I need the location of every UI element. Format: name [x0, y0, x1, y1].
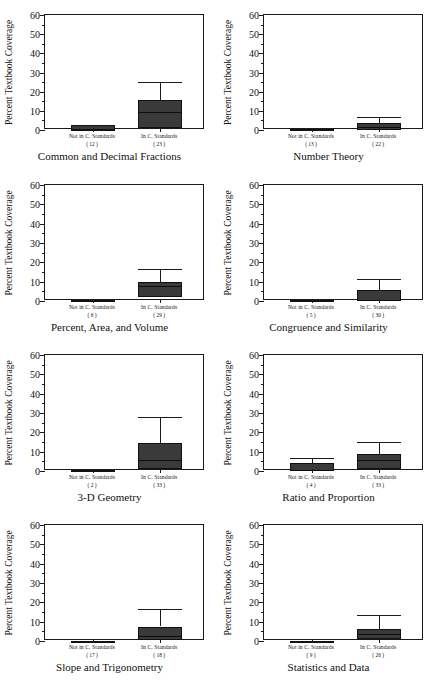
y-axis-tick [40, 602, 45, 603]
x-axis-tick [379, 639, 380, 643]
x-axis-tick [379, 128, 380, 132]
y-axis-tick [259, 564, 264, 565]
whisker-cap [138, 417, 182, 418]
y-axis-minor-tick [42, 631, 45, 632]
panel-title: Percent, Area, and Volume [0, 321, 219, 333]
plot-area: 0102030405060 [263, 524, 423, 640]
boxplot-figure-grid: Percent Textbook Coverage0102030405060No… [0, 0, 438, 685]
whisker-line [379, 442, 380, 454]
y-axis-tick [40, 243, 45, 244]
plot-area: 0102030405060 [263, 184, 423, 300]
y-axis-minor-tick [261, 195, 264, 196]
y-axis-tick [40, 92, 45, 93]
median-line [138, 112, 182, 113]
panel-title: Ratio and Proportion [219, 491, 438, 503]
y-axis-tick [40, 262, 45, 263]
category-count: ( 22 ) [338, 141, 418, 147]
y-axis-tick [40, 301, 45, 302]
boxplot-panel: Percent Textbook Coverage0102030405060No… [219, 175, 438, 345]
category-count: ( 18 ) [119, 652, 199, 658]
y-axis-title: Percent Textbook Coverage [4, 525, 18, 641]
y-axis-minor-tick [42, 442, 45, 443]
category-label: In C. Standards [119, 133, 199, 139]
y-axis-tick [259, 282, 264, 283]
y-axis-tick [40, 564, 45, 565]
y-axis-tick-label: 0 [35, 636, 40, 647]
y-axis-minor-tick [261, 63, 264, 64]
y-axis-minor-tick [261, 631, 264, 632]
y-axis-tick [40, 15, 45, 16]
y-axis-minor-tick [42, 384, 45, 385]
y-axis-tick [40, 130, 45, 131]
y-axis-tick [259, 525, 264, 526]
y-axis-tick-label: 50 [249, 29, 259, 40]
box [138, 100, 182, 128]
y-axis-tick-label: 30 [30, 408, 40, 419]
boxplot-panel: Percent Textbook Coverage0102030405060No… [0, 175, 219, 345]
y-axis-tick-label: 30 [249, 67, 259, 78]
y-axis-tick-label: 30 [249, 578, 259, 589]
plot-area: 0102030405060 [44, 184, 204, 300]
y-axis-tick [40, 374, 45, 375]
x-axis-tick [312, 639, 313, 643]
y-axis-minor-tick [261, 423, 264, 424]
boxplot-panel: Percent Textbook Coverage0102030405060No… [0, 0, 219, 175]
y-axis-tick-label: 20 [249, 86, 259, 97]
y-axis-tick [259, 583, 264, 584]
category-label: In C. Standards [338, 644, 418, 650]
panel-title: Congruence and Similarity [219, 321, 438, 333]
y-axis-tick-label: 10 [30, 446, 40, 457]
y-axis-tick-label: 0 [254, 296, 259, 307]
x-axis-tick [312, 299, 313, 303]
y-axis-tick-label: 30 [30, 67, 40, 78]
y-axis-tick [259, 34, 264, 35]
y-axis-tick [259, 413, 264, 414]
plot-area: 0102030405060 [44, 354, 204, 470]
y-axis-tick [40, 525, 45, 526]
x-axis-tick [93, 299, 94, 303]
whisker-line [379, 117, 380, 124]
y-axis-tick [259, 602, 264, 603]
panel-title: Number Theory [219, 150, 438, 162]
y-axis-tick [259, 471, 264, 472]
y-axis-tick [259, 224, 264, 225]
category-label: In C. Standards [119, 474, 199, 480]
y-axis-tick [259, 394, 264, 395]
y-axis-tick-label: 20 [249, 597, 259, 608]
y-axis-minor-tick [42, 25, 45, 26]
y-axis-minor-tick [261, 272, 264, 273]
y-axis-tick-label: 60 [249, 350, 259, 361]
y-axis-tick [259, 374, 264, 375]
whisker-cap [357, 615, 401, 616]
x-axis-tick [312, 469, 313, 473]
y-axis-tick [40, 583, 45, 584]
y-axis-tick-label: 50 [30, 539, 40, 550]
y-axis-tick [259, 15, 264, 16]
category-label: In C. Standards [338, 133, 418, 139]
y-axis-tick-label: 60 [30, 10, 40, 21]
y-axis-tick-label: 10 [249, 276, 259, 287]
y-axis-minor-tick [42, 593, 45, 594]
category-label: In C. Standards [338, 304, 418, 310]
y-axis-minor-tick [42, 403, 45, 404]
y-axis-tick-label: 60 [249, 10, 259, 21]
y-axis-minor-tick [42, 233, 45, 234]
y-axis-tick [40, 413, 45, 414]
whisker-cap [357, 117, 401, 118]
y-axis-minor-tick [42, 120, 45, 121]
y-axis-tick [259, 641, 264, 642]
y-axis-title: Percent Textbook Coverage [223, 355, 237, 471]
boxplot-panel: Percent Textbook Coverage0102030405060No… [219, 345, 438, 515]
y-axis-tick-label: 10 [30, 105, 40, 116]
whisker-cap [138, 269, 182, 270]
boxplot-panel: Percent Textbook Coverage0102030405060No… [0, 515, 219, 685]
x-axis-tick [160, 469, 161, 473]
boxplot-panel: Percent Textbook Coverage0102030405060No… [219, 515, 438, 685]
median-line [138, 286, 182, 287]
box [138, 443, 182, 469]
y-axis-tick-label: 50 [30, 369, 40, 380]
whisker-cap [138, 609, 182, 610]
y-axis-tick-label: 50 [249, 199, 259, 210]
y-axis-minor-tick [42, 423, 45, 424]
y-axis-minor-tick [261, 25, 264, 26]
